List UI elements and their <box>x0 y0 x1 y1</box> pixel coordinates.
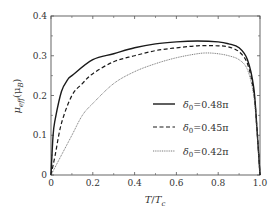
x-tick-label: 0 <box>48 178 54 188</box>
y-tick-label: 0.1 <box>33 130 47 140</box>
y-axis-label: μeff(μB) <box>11 78 25 113</box>
data-series <box>51 41 260 175</box>
x-tick-label: 0.4 <box>127 178 142 188</box>
axis-ticks: 00.20.40.60.81.000.10.20.30.4 <box>33 11 268 188</box>
x-axis-label: T/Tc <box>145 194 166 208</box>
chart: 00.20.40.60.81.000.10.20.30.4 μeff(μB) T… <box>0 0 279 211</box>
legend: δ0=0.48π δ0=0.45π δ0=0.42π <box>153 99 229 160</box>
x-tick-label: 0.2 <box>86 178 100 188</box>
series-line-dotted <box>51 53 260 175</box>
series-line-dashed <box>51 46 260 175</box>
y-tick-label: 0.4 <box>33 11 48 21</box>
legend-label-3: δ0=0.42π <box>183 146 229 160</box>
x-tick-label: 1.0 <box>253 178 268 188</box>
x-tick-label: 0.6 <box>169 178 184 188</box>
x-tick-label: 0.8 <box>211 178 226 188</box>
y-tick-label: 0 <box>41 170 47 180</box>
y-tick-label: 0.2 <box>33 91 47 101</box>
series-line-solid <box>51 41 260 175</box>
legend-label-2: δ0=0.45π <box>183 122 229 136</box>
y-tick-label: 0.3 <box>33 51 48 61</box>
legend-label-1: δ0=0.48π <box>183 99 229 113</box>
